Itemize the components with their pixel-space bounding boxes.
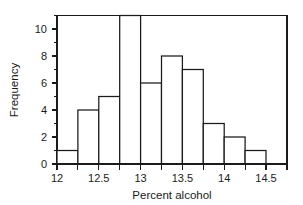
y-label-8: 8 (41, 50, 47, 62)
histogram-bars (57, 16, 266, 165)
histogram-bar (182, 70, 203, 165)
y-axis-labels: 0 2 4 6 8 10 (35, 23, 47, 170)
histogram-bar (120, 16, 141, 165)
x-label-12p5: 12.5 (88, 172, 109, 184)
y-label-0: 0 (41, 158, 47, 170)
histogram-bar (78, 110, 99, 164)
x-axis-ticks (57, 164, 287, 170)
y-label-6: 6 (41, 77, 47, 89)
y-axis-ticks (52, 16, 57, 165)
x-label-14: 14 (218, 172, 230, 184)
histogram-bar (162, 56, 183, 164)
y-axis-title: Frequency (8, 63, 20, 118)
y-label-10: 10 (35, 23, 47, 35)
x-label-14p5: 14.5 (255, 172, 276, 184)
histogram-plot: 0 2 4 6 8 10 12 12.5 13 13.5 (0, 0, 303, 205)
histogram-figure: 0 2 4 6 8 10 12 12.5 13 13.5 (0, 0, 303, 205)
x-label-13: 13 (134, 172, 146, 184)
y-label-4: 4 (41, 104, 47, 116)
y-label-2: 2 (41, 131, 47, 143)
histogram-bar (245, 151, 266, 165)
x-label-13p5: 13.5 (172, 172, 193, 184)
x-axis-title: Percent alcohol (132, 189, 211, 201)
histogram-bar (57, 151, 78, 165)
histogram-bar (141, 83, 162, 164)
histogram-bar (224, 137, 245, 164)
histogram-bar (203, 124, 224, 165)
histogram-bar (99, 97, 120, 165)
x-axis-labels: 12 12.5 13 13.5 14 14.5 (51, 172, 277, 184)
x-label-12: 12 (51, 172, 63, 184)
